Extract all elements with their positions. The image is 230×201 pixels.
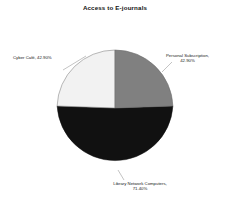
pie-label-cyber-cafe-text: Cyber Café, 42.90%: [13, 55, 52, 60]
pie-chart-canvas: [0, 0, 230, 201]
pie-label-personal-subscription-value: 42.90%: [166, 58, 209, 63]
pie-label-cyber-cafe: Cyber Café, 42.90%: [13, 55, 52, 60]
pie-slice-library-network-computers: [57, 106, 173, 161]
pie-label-library-network-computers-text: Library Network Computers,: [113, 181, 167, 186]
pie-label-personal-subscription-text: Personal Subscription,: [166, 53, 209, 58]
leader-line-library-network-computers: [118, 170, 124, 180]
pie-chart-figure: Access to E-journals Cyber Café, 42.90% …: [0, 0, 230, 201]
pie-label-personal-subscription: Personal Subscription, 42.90%: [166, 53, 209, 64]
pie-label-library-network-computers: Library Network Computers, 71.40%: [85, 181, 195, 192]
pie-slice-personal-subscription: [115, 50, 173, 108]
pie-label-library-network-computers-value: 71.40%: [85, 186, 195, 191]
pie-slice-cyber-cafe: [57, 50, 115, 108]
